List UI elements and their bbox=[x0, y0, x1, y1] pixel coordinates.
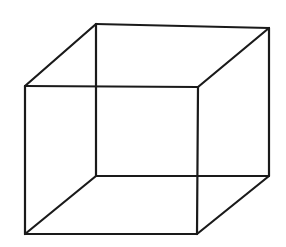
cube-drawing-canvas bbox=[0, 0, 286, 247]
figure-background bbox=[0, 0, 286, 247]
necker-cube-figure bbox=[0, 0, 286, 247]
front-face-right-edge bbox=[197, 87, 198, 234]
front-face-top-edge bbox=[25, 86, 198, 87]
